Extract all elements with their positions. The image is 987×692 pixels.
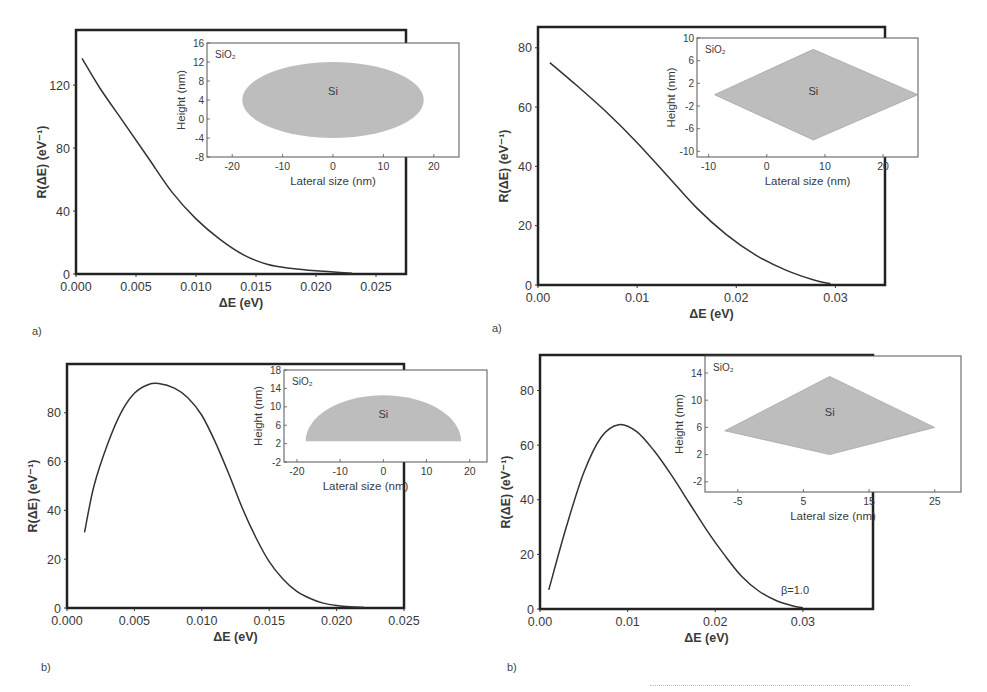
- inset-y-tick-label: 0: [198, 114, 204, 125]
- inset-plot: -8-40481216-20-1001020Lateral size (nm)H…: [175, 38, 459, 188]
- inset-y-tick-label: 14: [270, 383, 282, 394]
- x-tick-label: 0.005: [119, 614, 150, 628]
- y-tick-label: 40: [56, 205, 70, 219]
- y-tick-label: 120: [49, 79, 70, 93]
- inset-x-tick-label: -5: [733, 495, 742, 507]
- y-axis: 020406080R(ΔE) (eV⁻¹): [497, 41, 538, 292]
- sio2-label: SiO₂: [705, 44, 726, 55]
- sio2-label: SiO₂: [713, 362, 734, 373]
- x-tick-label: 0.025: [388, 614, 419, 628]
- y-axis-label: R(ΔE) (eV⁻¹): [497, 130, 511, 203]
- x-tick-label: 0.01: [615, 615, 639, 629]
- si-dot-shape: [242, 62, 423, 138]
- chart-panel-top-right: 020406080R(ΔE) (eV⁻¹)0.000.010.020.03ΔE …: [490, 0, 987, 340]
- y-axis: 020406080R(ΔE) (eV⁻¹): [26, 406, 67, 615]
- inset-y-tick-label: 6: [688, 55, 694, 66]
- x-axis: 0.0000.0050.0100.0150.0200.025ΔE (eV): [60, 274, 391, 310]
- y-tick-label: 40: [520, 493, 534, 507]
- inset-y-tick-label: -2: [272, 457, 281, 468]
- x-tick-label: 0.015: [254, 614, 285, 628]
- x-axis-label: ΔE (eV): [219, 296, 263, 310]
- inset-y-tick-label: 10: [683, 33, 695, 44]
- y-tick-label: 80: [518, 41, 532, 55]
- inset-y-tick-label: -2: [685, 101, 694, 112]
- chart-svg: 020406080R(ΔE) (eV⁻¹)0.0000.0050.0100.01…: [0, 340, 490, 692]
- inset-x-tick-label: -10: [701, 160, 716, 172]
- si-label: Si: [328, 85, 338, 97]
- y-axis: 04080120R(ΔE) (eV⁻¹): [35, 79, 76, 282]
- inset-x-axis-label: Lateral size (nm): [765, 175, 851, 187]
- x-tick-label: 0.025: [360, 280, 391, 294]
- inset-x-axis-label: Lateral size (nm): [323, 480, 409, 492]
- si-label: Si: [825, 406, 835, 418]
- x-tick-label: 0.02: [724, 291, 748, 305]
- inset-plot: -10-6-22610-1001020Lateral size (nm)Heig…: [665, 33, 918, 188]
- inset-y-tick-label: -8: [195, 152, 204, 163]
- inset-y-tick-label: 4: [198, 95, 204, 106]
- inset-y-tick-label: 14: [691, 368, 703, 379]
- inset-x-axis-label: Lateral size (nm): [290, 175, 376, 187]
- inset-y-axis-label: Height (nm): [175, 70, 187, 130]
- x-axis-label: ΔE (eV): [684, 631, 728, 645]
- x-tick-label: 0.020: [300, 280, 331, 294]
- inset-y-tick-label: 10: [270, 401, 282, 412]
- inset-y-tick-label: 2: [688, 78, 694, 89]
- inset-y-tick-label: 2: [696, 449, 702, 460]
- x-axis: 0.000.010.020.03ΔE (eV): [526, 285, 848, 321]
- inset-x-tick-label: 20: [464, 465, 476, 477]
- inset-plot: -2261014-551525Lateral size (nm)Height (…: [673, 356, 961, 522]
- y-tick-label: 60: [518, 101, 532, 115]
- y-axis-label: R(ΔE) (eV⁻¹): [35, 126, 49, 199]
- panel-label: a): [32, 325, 42, 337]
- inset-y-tick-label: -6: [685, 123, 694, 134]
- y-tick-label: 60: [520, 439, 534, 453]
- chart-svg: 020406080R(ΔE) (eV⁻¹)0.000.010.020.03ΔE …: [490, 0, 987, 340]
- chart-panel-bottom-right: 020406080R(ΔE) (eV⁻¹)0.000.010.020.03ΔE …: [490, 340, 987, 692]
- inset-x-tick-label: -10: [275, 160, 290, 172]
- x-tick-label: 0.000: [60, 280, 91, 294]
- inset-y-tick-label: 6: [696, 422, 702, 433]
- y-tick-label: 80: [520, 384, 534, 398]
- inset-x-tick-label: -20: [289, 465, 304, 477]
- x-tick-label: 0.03: [823, 291, 847, 305]
- x-tick-label: 0.000: [51, 614, 82, 628]
- inset-x-tick-label: 5: [801, 495, 807, 507]
- inset-y-tick-label: 8: [198, 76, 204, 87]
- y-tick-label: 40: [47, 504, 61, 518]
- cropped-caption-fragment: [650, 685, 910, 689]
- x-tick-label: 0.03: [791, 615, 815, 629]
- y-tick-label: 20: [520, 548, 534, 562]
- x-tick-label: 0.00: [528, 615, 552, 629]
- inset-x-tick-label: 0: [764, 160, 770, 172]
- sio2-label: SiO₂: [215, 49, 236, 60]
- inset-y-axis-label: Height (nm): [252, 386, 264, 446]
- beta-annotation: β=1.0: [781, 584, 809, 596]
- inset-x-tick-label: 10: [421, 465, 433, 477]
- x-axis: 0.0000.0050.0100.0150.0200.025ΔE (eV): [51, 608, 419, 644]
- x-axis-label: ΔE (eV): [213, 630, 257, 644]
- y-tick-label: 40: [518, 160, 532, 174]
- panel-label: b): [41, 661, 51, 673]
- si-label: Si: [378, 408, 388, 420]
- sio2-label: SiO₂: [292, 376, 313, 387]
- x-tick-label: 0.01: [625, 291, 649, 305]
- chart-panel-top-left: 04080120R(ΔE) (eV⁻¹)0.0000.0050.0100.015…: [0, 0, 490, 340]
- inset-x-tick-label: -20: [225, 160, 240, 172]
- panel-label: b): [507, 661, 517, 673]
- y-tick-label: 20: [518, 219, 532, 233]
- inset-x-axis-label: Lateral size (nm): [790, 510, 876, 522]
- inset-y-tick-label: -2: [693, 476, 702, 487]
- y-axis-label: R(ΔE) (eV⁻¹): [26, 460, 40, 533]
- inset-y-tick-label: 10: [691, 395, 703, 406]
- x-tick-label: 0.02: [703, 615, 727, 629]
- inset-y-tick-label: 18: [270, 365, 282, 376]
- inset-y-tick-label: 12: [193, 57, 205, 68]
- chart-svg: 020406080R(ΔE) (eV⁻¹)0.000.010.020.03ΔE …: [490, 340, 987, 692]
- y-axis-label: R(ΔE) (eV⁻¹): [499, 456, 513, 529]
- chart-panel-bottom-left: 020406080R(ΔE) (eV⁻¹)0.0000.0050.0100.01…: [0, 340, 490, 692]
- inset-y-tick-label: 2: [275, 438, 281, 449]
- inset-y-tick-label: -10: [680, 146, 695, 157]
- inset-x-tick-label: 20: [428, 160, 440, 172]
- inset-y-tick-label: 16: [193, 38, 205, 49]
- inset-y-axis-label: Height (nm): [665, 67, 677, 127]
